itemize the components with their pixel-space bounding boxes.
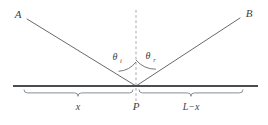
label-segment-left: x: [75, 101, 81, 112]
label-angle-incidence-subscript: i: [120, 57, 122, 64]
label-angle-incidence-symbol: θ: [113, 51, 118, 62]
diagram-canvas: A B θ i θ r P x L−x: [0, 0, 268, 125]
label-point-b: B: [246, 7, 253, 19]
label-point-a: A: [14, 8, 22, 20]
reflection-diagram-figure: A B θ i θ r P x L−x: [0, 0, 268, 125]
label-segment-right: L−x: [182, 101, 200, 112]
label-point-p: P: [132, 100, 140, 112]
label-angle-reflection-symbol: θ: [146, 50, 151, 61]
